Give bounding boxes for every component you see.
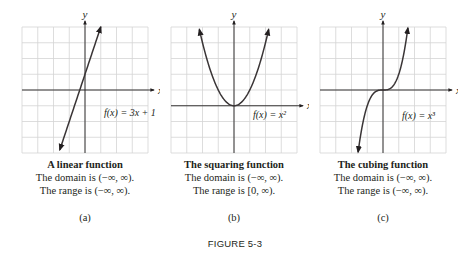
chart-linear: xyf(x) = 3x + 1: [10, 0, 160, 160]
panel-a: xyf(x) = 3x + 1 A linear function The do…: [10, 0, 160, 230]
caption-title: The squaring function: [159, 158, 309, 171]
domain-text: The domain is (−∞, ∞).: [10, 171, 160, 184]
equation-label: f(x) = x²: [253, 109, 287, 121]
panel-c: xyf(x) = x³ The cubing function The doma…: [308, 0, 458, 230]
sublabel-c: (c): [308, 212, 458, 223]
caption-title: A linear function: [10, 158, 160, 171]
panel-b: xyf(x) = x² The squaring function The do…: [159, 0, 309, 230]
range-text: The range is (−∞, ∞).: [308, 184, 458, 197]
domain-text: The domain is (−∞, ∞).: [308, 171, 458, 184]
y-axis-label: y: [380, 8, 386, 20]
caption-a: A linear function The domain is (−∞, ∞).…: [10, 158, 160, 197]
sublabel-b: (b): [159, 212, 309, 223]
axes: xy: [171, 8, 309, 153]
equation-label: f(x) = 3x + 1: [104, 107, 156, 119]
axes: xy: [320, 8, 458, 153]
chart-squaring: xyf(x) = x²: [159, 0, 309, 160]
y-axis-label: y: [231, 8, 237, 20]
chart-cubing: xyf(x) = x³: [308, 0, 458, 160]
axes: xy: [22, 8, 160, 153]
range-text: The range is [0, ∞).: [159, 184, 309, 197]
caption-title: The cubing function: [308, 158, 458, 171]
equation-label: f(x) = x³: [402, 110, 436, 122]
caption-b: The squaring function The domain is (−∞,…: [159, 158, 309, 197]
x-axis-label: x: [455, 84, 458, 96]
domain-text: The domain is (−∞, ∞).: [159, 171, 309, 184]
sublabel-a: (a): [10, 212, 160, 223]
figure-label: FIGURE 5-3: [0, 238, 470, 249]
y-axis-label: y: [82, 8, 88, 20]
caption-c: The cubing function The domain is (−∞, ∞…: [308, 158, 458, 197]
function-curve: [60, 27, 101, 150]
range-text: The range is (−∞, ∞).: [10, 184, 160, 197]
